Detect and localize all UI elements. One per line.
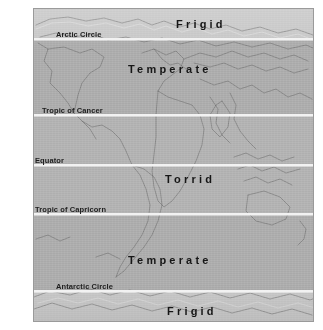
zone-caption-temperate-south: Temperate <box>128 254 212 267</box>
zone-caption-temperate-north: Temperate <box>128 63 212 76</box>
zone-band-temperate-south <box>34 213 313 290</box>
latitude-label-tropic-of-capricorn: Tropic of Capricorn <box>35 205 106 214</box>
latitude-label-arctic-circle: Arctic Circle <box>56 30 102 39</box>
zone-band-temperate-north <box>34 39 313 115</box>
latitude-label-equator: Equator <box>35 156 64 165</box>
zone-caption-frigid-south: Frigid <box>167 305 217 318</box>
climate-zones-figure: Arctic Circle Tropic of Cancer Equator T… <box>0 0 323 330</box>
latitude-line-equator <box>34 164 313 166</box>
map-canvas: Arctic Circle Tropic of Cancer Equator T… <box>34 9 313 321</box>
latitude-label-tropic-of-cancer: Tropic of Cancer <box>42 106 103 115</box>
zone-caption-frigid-north: Frigid <box>176 18 226 31</box>
zone-caption-torrid: Torrid <box>165 173 215 186</box>
latitude-label-antarctic-circle: Antarctic Circle <box>56 282 113 291</box>
map-frame: Arctic Circle Tropic of Cancer Equator T… <box>33 8 314 322</box>
